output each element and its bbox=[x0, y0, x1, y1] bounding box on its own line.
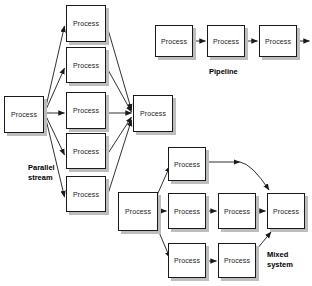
node-label: Process bbox=[161, 38, 187, 45]
node-label: Process bbox=[140, 110, 166, 117]
node-label: Process bbox=[73, 62, 99, 69]
node-ps-b3[interactable]: Process bbox=[66, 92, 106, 129]
edge-ps-src-to-b2 bbox=[45, 68, 65, 113]
node-label: Process bbox=[125, 208, 151, 215]
edge-ps-b4-to-sink bbox=[107, 117, 132, 155]
node-mx-src[interactable]: Process bbox=[118, 192, 158, 231]
node-label: Process bbox=[174, 257, 200, 264]
node-mx-mid2[interactable]: Process bbox=[218, 193, 256, 229]
node-pl-2[interactable]: Process bbox=[207, 25, 245, 57]
node-ps-b5[interactable]: Process bbox=[66, 176, 106, 212]
edge-ps-b5-to-sink bbox=[107, 120, 132, 197]
node-label: Process bbox=[273, 208, 299, 215]
node-ps-sink[interactable]: Process bbox=[133, 95, 173, 132]
node-label: Process bbox=[174, 161, 200, 168]
group-label-pipeline: Pipeline bbox=[209, 67, 238, 77]
node-ps-b4[interactable]: Process bbox=[66, 133, 106, 169]
node-label: Process bbox=[265, 38, 291, 45]
node-label: Process bbox=[73, 107, 99, 114]
node-ps-b2[interactable]: Process bbox=[66, 47, 106, 83]
node-mx-bot2[interactable]: Process bbox=[218, 243, 256, 278]
edge-mx-top-to-sink-tail bbox=[240, 162, 269, 190]
node-label: Process bbox=[73, 191, 99, 198]
edge-ps-src-to-b4 bbox=[45, 113, 65, 155]
node-mx-top[interactable]: Process bbox=[168, 147, 206, 181]
edge-ps-b1-to-sink bbox=[107, 26, 132, 110]
node-label: Process bbox=[224, 208, 250, 215]
node-label: Process bbox=[73, 148, 99, 155]
group-label-parallel-stream: Parallel stream bbox=[28, 163, 55, 182]
node-label: Process bbox=[174, 208, 200, 215]
node-label: Process bbox=[213, 38, 239, 45]
node-label: Process bbox=[73, 20, 99, 27]
node-label: Process bbox=[224, 257, 250, 264]
node-pl-3[interactable]: Process bbox=[259, 25, 297, 57]
edge-ps-b2-to-sink bbox=[107, 68, 132, 112]
group-label-mixed-system: Mixed system bbox=[267, 250, 293, 269]
node-ps-src[interactable]: Process bbox=[4, 96, 44, 133]
node-label: Process bbox=[11, 111, 37, 118]
node-mx-bot1[interactable]: Process bbox=[168, 243, 206, 278]
process-flow-diagram: Process Process Process Process Process … bbox=[0, 0, 312, 286]
node-mx-sink[interactable]: Process bbox=[267, 193, 305, 229]
node-mx-mid1[interactable]: Process bbox=[168, 193, 206, 229]
edge-ps-src-to-b1 bbox=[45, 26, 65, 113]
node-ps-b1[interactable]: Process bbox=[66, 5, 106, 42]
node-pl-1[interactable]: Process bbox=[155, 25, 193, 57]
edge-ps-src-to-b5 bbox=[45, 113, 65, 197]
